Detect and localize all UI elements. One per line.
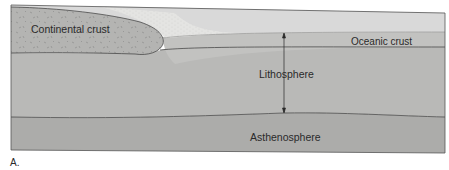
lithosphere-label: Lithosphere [259, 68, 314, 80]
plate-cross-section-diagram: Continental crust Oceanic crust Lithosph… [0, 0, 449, 170]
continental-crust-label: Continental crust [31, 23, 110, 35]
panel-label: A. [10, 157, 19, 168]
oceanic-crust-label: Oceanic crust [351, 36, 412, 47]
asthenosphere-layer [11, 113, 445, 153]
asthenosphere-label: Asthenosphere [250, 131, 321, 143]
